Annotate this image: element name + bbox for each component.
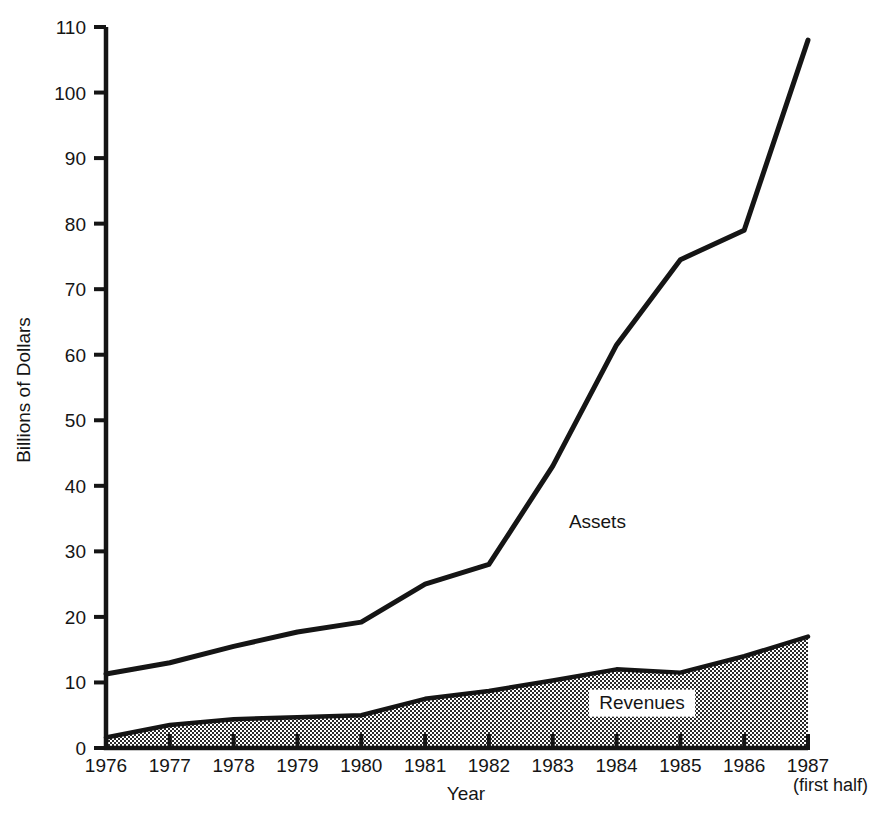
x-tick-label: 1979 [276,755,318,776]
x-tick-label: 1978 [212,755,254,776]
first-half-note: (first half) [793,775,868,795]
y-axis-tick-labels: 0102030405060708090100110 [54,17,86,759]
x-tick-label: 1983 [532,755,574,776]
y-tick-label: 30 [65,541,86,562]
x-tick-label: 1984 [595,755,638,776]
x-tick-label: 1985 [659,755,701,776]
axes-group [94,27,808,750]
x-tick-label: 1977 [149,755,191,776]
plot-area [106,40,808,748]
y-tick-label: 40 [65,476,86,497]
y-tick-label: 50 [65,410,86,431]
y-tick-label: 90 [65,148,86,169]
x-tick-label: 1982 [468,755,510,776]
y-tick-label: 70 [65,279,86,300]
chart-container: 0102030405060708090100110 19761977197819… [0,0,875,825]
y-tick-label: 80 [65,214,86,235]
x-tick-label: 1986 [723,755,765,776]
series-label-revenues: Revenues [599,692,685,713]
y-axis-title: Billions of Dollars [13,317,34,463]
assets-line [106,40,808,674]
x-axis-title: Year [447,783,486,804]
y-tick-label: 110 [56,17,86,38]
y-tick-label: 20 [65,607,86,628]
x-axis-tick-labels: 1976197719781979198019811982198319841985… [85,755,829,776]
x-tick-label: 1981 [404,755,446,776]
axis-lines [106,27,808,748]
y-tick-label: 60 [65,345,86,366]
x-tick-label: 1987 [787,755,829,776]
x-tick-label: 1980 [340,755,382,776]
x-tick-label: 1976 [85,755,127,776]
y-tick-label: 100 [54,83,86,104]
line-area-chart: 0102030405060708090100110 19761977197819… [0,0,875,825]
series-label-assets: Assets [569,511,626,532]
y-tick-label: 10 [65,672,86,693]
